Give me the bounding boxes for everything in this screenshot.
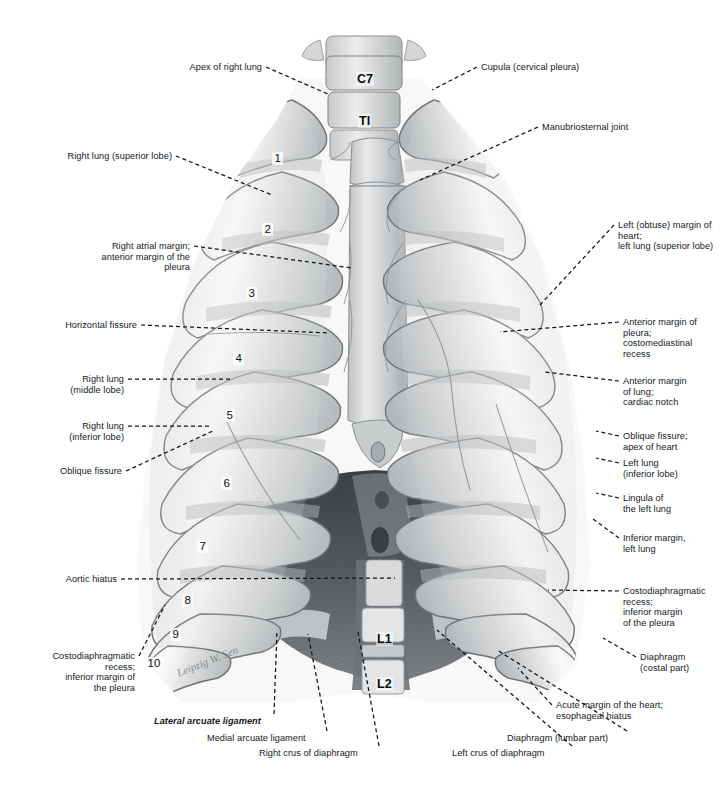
label-right-atrial-margin: Right atrial margin; anterior margin of … bbox=[102, 241, 190, 273]
label-right-crus-of-diaphragm: Right crus of diaphragm bbox=[259, 748, 358, 759]
label-oblique-fissure-apex-of-heart: Oblique fissure; apex of heart bbox=[623, 431, 688, 452]
rib-number-4: 4 bbox=[233, 352, 244, 365]
label-left-crus-of-diaphragm: Left crus of diaphragm bbox=[452, 748, 545, 759]
vertebra-label-l2: L2 bbox=[376, 677, 393, 691]
rib-number-2: 2 bbox=[262, 223, 273, 236]
label-left-lung-inferior-lobe: Left lung (inferior lobe) bbox=[623, 458, 678, 479]
rib-number-8: 8 bbox=[182, 594, 193, 607]
label-manubriosternal-joint: Manubriosternal joint bbox=[542, 122, 628, 133]
label-horizontal-fissure: Horizontal fissure bbox=[65, 320, 137, 331]
label-aortic-hiatus: Aortic hiatus bbox=[66, 574, 117, 585]
rib-number-9: 9 bbox=[170, 628, 181, 641]
rib-number-6: 6 bbox=[221, 477, 232, 490]
rib-number-5: 5 bbox=[224, 409, 235, 422]
label-inferior-margin-left-lung: Inferior margin, left lung bbox=[623, 533, 686, 554]
vertebra-label-c7: C7 bbox=[356, 72, 374, 86]
vertebra-label-l1: L1 bbox=[376, 632, 393, 646]
label-anterior-margin-of-lung: Anterior margin of lung; cardiac notch bbox=[623, 376, 687, 408]
label-diaphragm-costal-part: Diaphragm (costal part) bbox=[640, 652, 689, 673]
label-costodiaphragmatic-recess-left: Costodiaphragmatic recess; inferior marg… bbox=[623, 586, 706, 628]
rib-number-3: 3 bbox=[246, 287, 257, 300]
label-medial-arcuate-ligament: Medial arcuate ligament bbox=[207, 733, 306, 744]
label-left-obtuse-margin-of-heart: Left (obtuse) margin of heart; left lung… bbox=[618, 220, 713, 252]
label-lingula-of-the-left-lung: Lingula of the left lung bbox=[623, 493, 671, 514]
rib-number-10: 10 bbox=[145, 657, 163, 670]
label-costodiaphragmatic-recess-right: Costodiaphragmatic recess; inferior marg… bbox=[52, 651, 135, 693]
label-apex-of-right-lung: Apex of right lung bbox=[190, 62, 262, 73]
label-right-lung-inferior-lobe: Right lung (inferior lobe) bbox=[69, 421, 124, 442]
label-lateral-arcuate-ligament: Lateral arcuate ligament bbox=[154, 716, 261, 727]
rib-number-1: 1 bbox=[272, 152, 283, 165]
label-anterior-margin-of-pleura: Anterior margin of pleura; costomediasti… bbox=[623, 317, 697, 359]
rib-number-7: 7 bbox=[197, 540, 208, 553]
vertebra-label-ti: TI bbox=[358, 114, 371, 128]
label-right-lung-superior-lobe: Right lung (superior lobe) bbox=[68, 151, 172, 162]
label-right-lung-middle-lobe: Right lung (middle lobe) bbox=[70, 374, 124, 395]
label-cupula-cervical-pleura: Cupula (cervical pleura) bbox=[481, 62, 579, 73]
label-acute-margin-of-the-heart: Acute margin of the heart; esophageal hi… bbox=[556, 700, 663, 721]
label-oblique-fissure: Oblique fissure bbox=[60, 466, 122, 477]
anatomy-plate: Apex of right lungRight lung (superior l… bbox=[0, 0, 721, 793]
vertebral-column-lumbar bbox=[362, 560, 404, 694]
label-diaphragm-lumbar-part: Diaphragm (lumbar part) bbox=[507, 733, 608, 744]
